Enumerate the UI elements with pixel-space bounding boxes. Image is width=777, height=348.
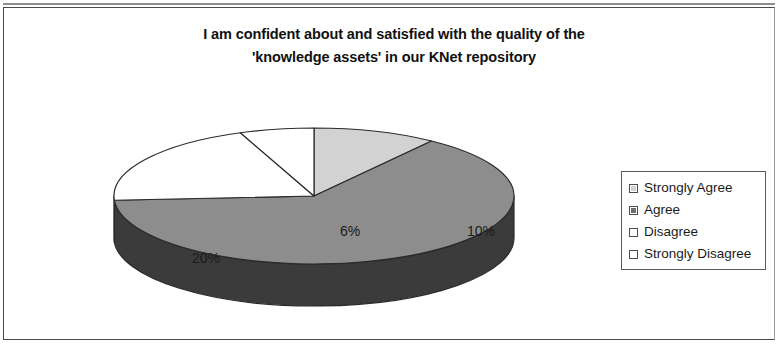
page-edge-shadow <box>3 3 775 5</box>
legend-item-disagree: Disagree <box>629 221 765 243</box>
legend-swatch-icon-strongly-disagree <box>629 250 638 259</box>
legend-label-strongly-agree: Strongly Agree <box>644 181 733 195</box>
pie-plot-area: 10% 64% 20% 6% <box>99 108 539 323</box>
chart-title: I am confident about and satisfied with … <box>44 23 744 69</box>
legend-swatch-icon-disagree <box>629 228 638 237</box>
legend-swatch-icon-strongly-agree <box>629 184 638 193</box>
data-label-strongly-disagree: 6% <box>340 223 360 239</box>
chart-legend: Strongly Agree Agree Disagree Strongly D… <box>621 171 766 270</box>
chart-screenshot: I am confident about and satisfied with … <box>0 0 777 348</box>
legend-swatch-icon-agree <box>629 206 638 215</box>
legend-label-disagree: Disagree <box>644 225 698 239</box>
chart-frame: I am confident about and satisfied with … <box>3 7 775 340</box>
data-label-disagree: 20% <box>192 250 220 266</box>
legend-label-strongly-disagree: Strongly Disagree <box>644 247 751 261</box>
legend-item-strongly-disagree: Strongly Disagree <box>629 243 765 265</box>
chart-title-line-1: I am confident about and satisfied with … <box>44 23 744 46</box>
data-label-strongly-agree: 10% <box>467 223 495 239</box>
legend-item-strongly-agree: Strongly Agree <box>629 177 765 199</box>
pie-chart-svg <box>99 108 539 323</box>
chart-title-line-2: 'knowledge assets' in our KNet repositor… <box>44 46 744 69</box>
legend-item-agree: Agree <box>629 199 765 221</box>
legend-label-agree: Agree <box>644 203 680 217</box>
